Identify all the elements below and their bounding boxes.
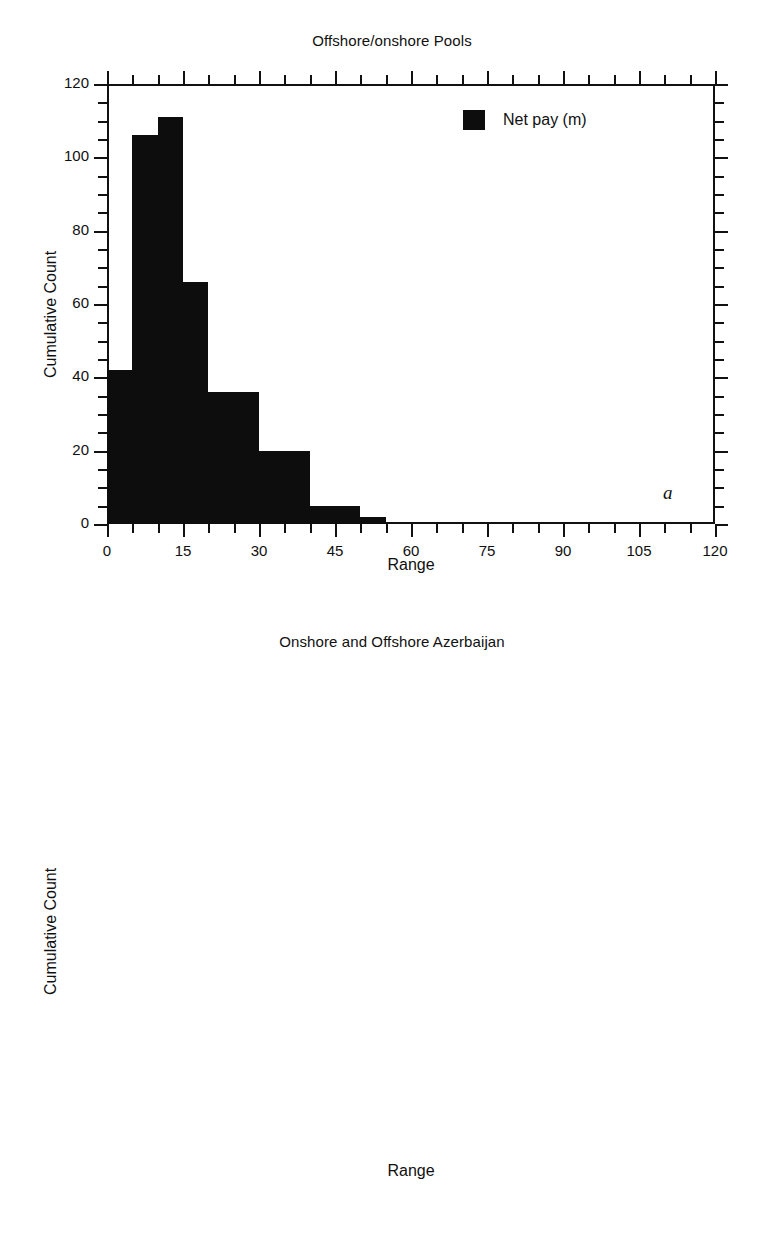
axis-tick: [234, 524, 236, 533]
axis-tick: [183, 71, 185, 84]
axis-tick: [715, 322, 724, 324]
axis-tick: [614, 524, 616, 533]
chart-a-title: Offshore/onshore Pools: [0, 32, 784, 49]
axis-tick: [310, 75, 312, 84]
axis-tick: [664, 75, 666, 84]
axis-tick: [94, 451, 107, 453]
axis-tick: [158, 75, 160, 84]
axis-tick: [98, 487, 107, 489]
axis-tick: [715, 84, 728, 86]
axis-tick: [98, 267, 107, 269]
axis-tick: [715, 487, 724, 489]
axis-tick: [98, 286, 107, 288]
axis-tick: [436, 75, 438, 84]
axis-tick: [386, 75, 388, 84]
ytick-label: 100: [29, 147, 89, 164]
axis-tick: [639, 71, 641, 84]
axis-tick: [98, 506, 107, 508]
axis-tick: [512, 524, 514, 533]
axis-tick: [690, 524, 692, 533]
legend-swatch-icon: [463, 110, 485, 130]
axis-tick: [436, 524, 438, 533]
ytick-label: 0: [29, 514, 89, 531]
figure-histograms: Offshore/onshore Pools 01530456075901051…: [0, 0, 784, 1233]
ytick-label: 80: [29, 221, 89, 238]
histogram-bar: [234, 392, 259, 524]
axis-tick: [715, 341, 724, 343]
axis-tick: [98, 414, 107, 416]
axis-tick: [563, 524, 565, 537]
axis-tick: [487, 71, 489, 84]
chart-b-xaxis-title: Range: [107, 1162, 715, 1180]
axis-tick: [715, 102, 724, 104]
axis-tick: [715, 157, 728, 159]
histogram-bar: [310, 506, 335, 524]
axis-tick: [360, 75, 362, 84]
axis-tick: [715, 524, 728, 526]
axis-tick: [259, 71, 261, 84]
axis-tick: [107, 71, 109, 84]
axis-tick: [94, 84, 107, 86]
axis-tick: [462, 524, 464, 533]
histogram-bar: [107, 370, 132, 524]
axis-tick: [715, 121, 724, 123]
ytick-label: 20: [29, 441, 89, 458]
histogram-bar: [284, 451, 309, 524]
axis-tick: [715, 139, 724, 141]
histogram-bar: [183, 282, 208, 524]
axis-tick: [715, 451, 728, 453]
axis-tick: [94, 157, 107, 159]
axis-tick: [208, 75, 210, 84]
axis-tick: [98, 432, 107, 434]
chart-b-yaxis-title: Cumulative Count: [42, 868, 60, 995]
axis-tick: [715, 414, 724, 416]
axis-tick: [98, 102, 107, 104]
chart-b-title: Onshore and Offshore Azerbaijan: [0, 633, 784, 650]
axis-tick: [107, 524, 109, 537]
axis-tick: [310, 524, 312, 533]
axis-tick: [614, 75, 616, 84]
axis-tick: [284, 524, 286, 533]
axis-tick: [132, 75, 134, 84]
axis-tick: [98, 341, 107, 343]
axis-tick: [98, 121, 107, 123]
axis-tick: [98, 249, 107, 251]
axis-tick: [512, 75, 514, 84]
axis-tick: [715, 359, 724, 361]
axis-tick: [715, 286, 724, 288]
axis-tick: [715, 231, 728, 233]
axis-tick: [98, 322, 107, 324]
axis-tick: [208, 524, 210, 533]
axis-tick: [715, 176, 724, 178]
histogram-bar: [208, 392, 233, 524]
axis-tick: [715, 396, 724, 398]
axis-tick: [284, 75, 286, 84]
chart-a-legend: Net pay (m): [463, 110, 587, 130]
axis-tick: [234, 75, 236, 84]
axis-tick: [94, 304, 107, 306]
axis-tick: [360, 524, 362, 533]
axis-tick: [664, 524, 666, 533]
axis-tick: [411, 524, 413, 537]
chart-a-panel-letter: a: [663, 482, 673, 504]
axis-tick: [639, 524, 641, 537]
histogram-bar: [158, 117, 183, 524]
axis-tick: [563, 71, 565, 84]
axis-tick: [588, 75, 590, 84]
axis-tick: [715, 377, 728, 379]
chart-a-plot-area: 0153045607590105120 020406080100120 Net …: [107, 84, 715, 524]
axis-tick: [98, 194, 107, 196]
axis-tick: [690, 75, 692, 84]
chart-panel-b: Onshore and Offshore Azerbaijan 01002003…: [0, 600, 784, 1233]
axis-tick: [538, 75, 540, 84]
histogram-bar: [335, 506, 360, 524]
histogram-bar: [259, 451, 284, 524]
axis-tick: [462, 75, 464, 84]
axis-tick: [715, 469, 724, 471]
axis-tick: [715, 249, 724, 251]
chart-a-bars: [107, 84, 715, 524]
chart-a-xaxis-title: Range: [107, 556, 715, 574]
chart-a-legend-label: Net pay (m): [503, 111, 587, 129]
axis-tick: [335, 524, 337, 537]
axis-tick: [98, 139, 107, 141]
